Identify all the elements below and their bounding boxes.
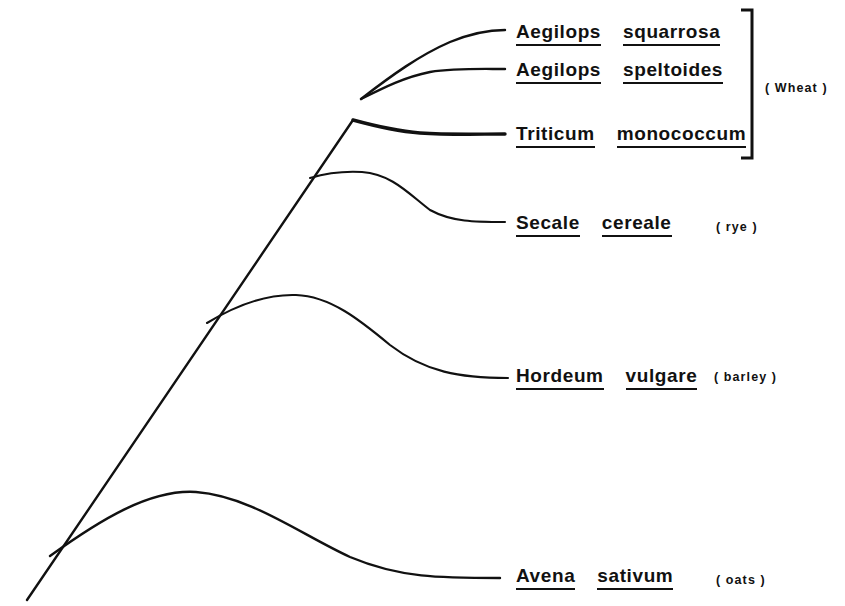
taxon-label-secale-cereale: Secalecereale bbox=[516, 213, 672, 237]
taxon-label-hordeum-vulgare: Hordeumvulgare bbox=[516, 366, 697, 390]
genus-name: Aegilops bbox=[516, 22, 601, 46]
taxon-label-triticum-monococcum: Triticummonococcum bbox=[516, 124, 746, 148]
genus-name: Avena bbox=[516, 566, 575, 590]
phylogenetic-tree-figure: AegilopssquarrosaAegilopsspeltoidesTriti… bbox=[0, 0, 845, 606]
branch-hordeum bbox=[207, 295, 508, 378]
species-name: cereale bbox=[602, 213, 672, 237]
branch-secale bbox=[310, 172, 505, 222]
taxon-label-aegilops-speltoides: Aegilopsspeltoides bbox=[516, 60, 723, 84]
common-name-hordeum-vulgare: ( barley ) bbox=[714, 371, 777, 384]
species-name: vulgare bbox=[626, 366, 698, 390]
genus-name: Triticum bbox=[516, 124, 595, 148]
branch-avena bbox=[50, 492, 500, 578]
tree-branches-svg bbox=[0, 0, 845, 606]
taxon-label-aegilops-squarrosa: Aegilopssquarrosa bbox=[516, 22, 720, 46]
species-name: speltoides bbox=[623, 60, 723, 84]
species-name: monococcum bbox=[617, 124, 747, 148]
genus-name: Secale bbox=[516, 213, 580, 237]
genus-name: Hordeum bbox=[516, 366, 604, 390]
genus-name: Aegilops bbox=[516, 60, 601, 84]
group-label-wheat-group: ( Wheat ) bbox=[765, 82, 828, 95]
common-name-avena-sativum: ( oats ) bbox=[716, 574, 766, 587]
common-name-secale-cereale: ( rye ) bbox=[716, 221, 758, 234]
species-name: squarrosa bbox=[623, 22, 720, 46]
trunk bbox=[27, 120, 353, 600]
branch-triticum bbox=[353, 120, 505, 134]
species-name: sativum bbox=[597, 566, 673, 590]
branch-layer bbox=[27, 30, 508, 600]
taxon-label-avena-sativum: Avenasativum bbox=[516, 566, 673, 590]
